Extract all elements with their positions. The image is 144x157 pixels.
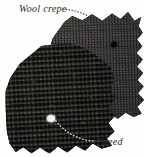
wool-crepe-label: Wool crepe — [19, 4, 67, 14]
tweed-label: Tweed — [96, 137, 123, 147]
fabric-swatch-figure: Wool crepe Tweed — [0, 0, 144, 157]
